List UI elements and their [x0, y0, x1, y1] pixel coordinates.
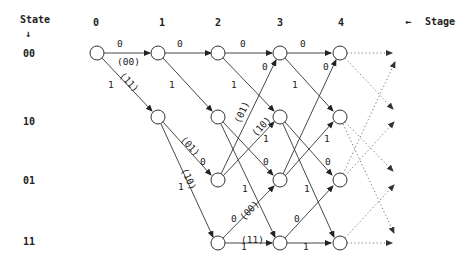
edge-label: 1: [263, 133, 269, 144]
node-s1-10: [151, 110, 165, 124]
edge-label: 0: [325, 156, 331, 167]
node-s3-10: [273, 110, 287, 124]
edge-label: (11): [241, 234, 264, 245]
state-00-label: 00: [23, 48, 35, 59]
node-s4-01: [333, 173, 347, 187]
edge-label: 0: [240, 38, 246, 49]
node-s0-00: [90, 46, 104, 60]
edge-labels: 0 (00) 1 (11) 0 1 (01) 0 (10) 1 0 1 (01)…: [108, 38, 331, 252]
stage-2-label: 2: [215, 17, 221, 28]
state-11-label: 11: [23, 236, 35, 247]
edge-label: (00): [237, 198, 261, 222]
edges-stage-3: [283, 53, 336, 243]
node-s4-10: [333, 110, 347, 124]
edge-label: 1: [292, 79, 298, 90]
edge-label: 0: [323, 61, 329, 72]
edge-label: 1: [324, 133, 330, 144]
node-s2-01: [211, 173, 225, 187]
state-down-arrow-icon: ↓: [25, 28, 31, 39]
edge-label: (11): [118, 70, 142, 94]
edge-label: 0: [294, 213, 300, 224]
edge-label: 0: [117, 38, 123, 49]
node-s2-00: [211, 46, 225, 60]
node-s2-10: [211, 110, 225, 124]
node-s4-11: [333, 236, 347, 250]
state-10-label: 10: [23, 116, 35, 127]
trellis-diagram: State ↓ ← Stage 0 1 2 3 4 00 10 01 11: [0, 0, 474, 266]
stage-0-label: 0: [93, 17, 99, 28]
node-s3-01: [273, 173, 287, 187]
edge-label: (01): [179, 134, 203, 158]
stage-4-label: 4: [338, 17, 344, 28]
edge-label: 1: [303, 241, 309, 252]
stage-axis-label: Stage: [425, 16, 455, 27]
node-s1-00: [151, 46, 165, 60]
edge-label: 1: [304, 183, 310, 194]
edge-label: 0: [262, 61, 268, 72]
stage-3-label: 3: [277, 17, 283, 28]
stage-1-label: 1: [159, 17, 165, 28]
node-s3-11: [273, 236, 287, 250]
edge-label: 0: [263, 156, 269, 167]
stage-left-arrow-icon: ←: [405, 16, 411, 27]
state-01-label: 01: [23, 175, 35, 186]
edge-label: (00): [117, 56, 140, 67]
edge-label: (01): [232, 99, 252, 124]
edge-label: 0: [177, 38, 183, 49]
edge-label: 0: [200, 156, 206, 167]
edge-label: 1: [242, 183, 248, 194]
node-s4-00: [333, 46, 347, 60]
edge-label: 1: [169, 79, 175, 90]
edge-label: 0: [300, 38, 306, 49]
edge-label: 1: [178, 181, 184, 192]
edges-continuation-dotted: [343, 53, 395, 243]
node-s2-11: [211, 236, 225, 250]
state-axis-label: State: [20, 14, 50, 25]
edge-label: 1: [231, 79, 237, 90]
edge-label: 0: [231, 213, 237, 224]
edge-label: 1: [108, 79, 114, 90]
node-s3-00: [273, 46, 287, 60]
